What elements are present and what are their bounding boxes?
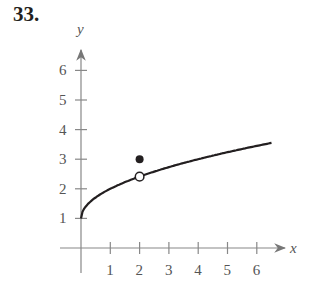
point-markers — [135, 155, 144, 181]
function-curve — [81, 143, 272, 219]
y-tick-label: 5 — [59, 92, 67, 108]
function-graph: 123456 123456 x y — [0, 0, 319, 291]
y-ticks: 123456 — [59, 62, 87, 226]
x-tick-label: 3 — [165, 262, 173, 278]
y-tick-label: 4 — [59, 122, 67, 138]
open-circle-marker — [135, 172, 144, 181]
x-tick-label: 6 — [253, 262, 261, 278]
x-tick-label: 2 — [136, 262, 144, 278]
y-tick-label: 1 — [59, 210, 67, 226]
y-tick-label: 2 — [59, 181, 67, 197]
y-tick-label: 6 — [59, 62, 67, 78]
y-tick-label: 3 — [59, 151, 67, 167]
x-tick-label: 5 — [224, 262, 232, 278]
y-axis-label: y — [75, 21, 84, 37]
x-tick-label: 4 — [194, 262, 202, 278]
filled-dot-marker — [136, 155, 144, 163]
x-axis-label: x — [289, 240, 297, 256]
x-tick-label: 1 — [106, 262, 114, 278]
